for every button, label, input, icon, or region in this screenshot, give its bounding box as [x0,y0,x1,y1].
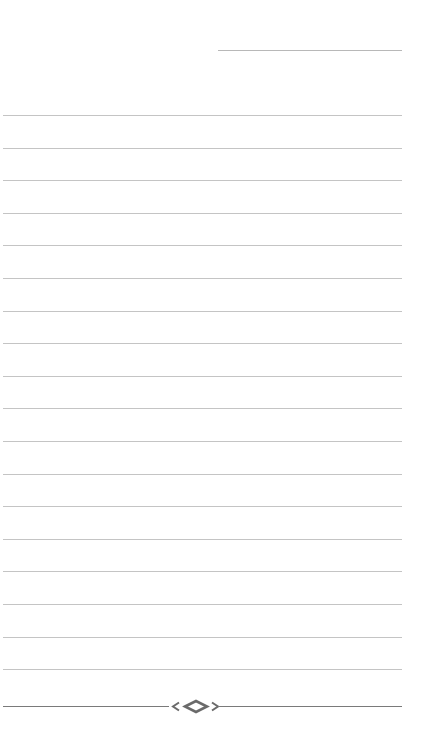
ruled-line [3,148,402,149]
ruled-line [3,343,402,344]
ruled-line [3,376,402,377]
ruled-line [3,539,402,540]
ruled-line [3,571,402,572]
ruled-line [3,604,402,605]
notebook-page [0,0,425,740]
divider-diamond-icon [3,698,402,716]
footer-ornament [3,698,402,716]
ruled-line [3,474,402,475]
ruled-line [3,180,402,181]
ruled-line [3,245,402,246]
ruled-line [3,408,402,409]
date-line [218,50,402,51]
ruled-line [3,506,402,507]
ruled-line [3,441,402,442]
ruled-line [3,637,402,638]
ruled-line [3,115,402,116]
ruled-line [3,669,402,670]
ruled-line [3,311,402,312]
ruled-line [3,278,402,279]
ruled-line [3,213,402,214]
